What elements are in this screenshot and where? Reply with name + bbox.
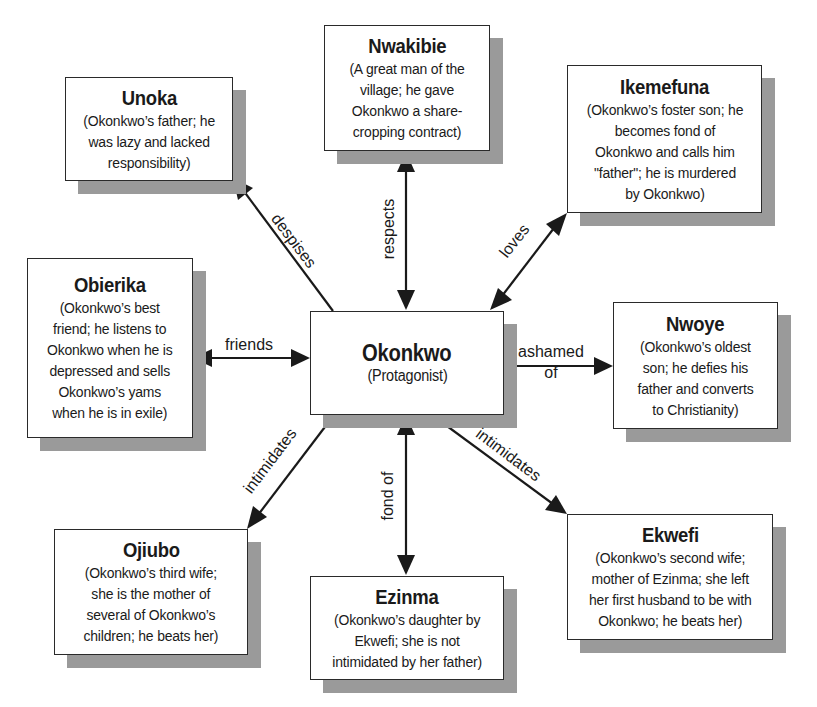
arrowhead-icon [594, 357, 613, 375]
relationship-diagram: Unoka (Okonkwo’s father; he was lazy and… [0, 0, 817, 707]
node-description: (Okonkwo’s oldest son; he defies his fat… [631, 336, 760, 420]
arrowhead-icon [397, 290, 415, 310]
node-description: (Protagonist) [363, 365, 452, 386]
node-description: (A great man of the village; he gave Oko… [343, 58, 471, 142]
edge-respects [397, 152, 415, 310]
node-description: (Okonkwo’s father; he was lazy and lacke… [76, 110, 222, 173]
edge-label-friends: friends [225, 336, 273, 354]
node-description: (Okonkwo’s second wife; mother of Ezinma… [580, 547, 761, 631]
edge-label-intimidates-ekwefi: intimidates [472, 425, 544, 485]
node-name: Nwoye [666, 312, 724, 336]
arrowhead-icon [397, 152, 415, 172]
arrowhead-icon [546, 213, 567, 236]
node-description: (Okonkwo’s best friend; he listens to Ok… [40, 297, 179, 423]
arrowhead-icon [397, 415, 415, 435]
arrowhead-icon [545, 495, 567, 514]
arrowhead-icon [291, 349, 310, 367]
node-description: (Okonkwo’s third wife; she is the mother… [76, 562, 226, 646]
node-ojiubo: Ojiubo (Okonkwo’s third wife; she is the… [54, 529, 248, 655]
edge-label-despises: despises [267, 210, 319, 271]
node-name: Ekwefi [642, 523, 699, 547]
node-okonkwo: Okonkwo (Protagonist) [310, 311, 504, 415]
arrowhead-icon [247, 506, 267, 529]
node-ekwefi: Ekwefi (Okonkwo’s second wife; mother of… [567, 514, 773, 640]
node-name: Okonkwo [362, 341, 451, 365]
edge-label-intimidates-ojiubo: intimidates [240, 425, 300, 497]
node-obierika: Obierika (Okonkwo’s best friend; he list… [27, 258, 193, 438]
node-name: Ikemefuna [620, 75, 709, 99]
node-description: (Okonkwo’s foster son; he becomes fond o… [578, 99, 752, 204]
edge-label-respects: respects [380, 199, 398, 259]
node-ikemefuna: Ikemefuna (Okonkwo’s foster son; he beco… [567, 65, 762, 213]
edge-intimidates-ekwefi [432, 415, 567, 514]
edge-label-ashamed-of: ashamed of [518, 341, 584, 383]
edge-label-fond-of: fond of [379, 472, 397, 521]
edge-despises [233, 178, 333, 311]
node-nwakibie: Nwakibie (A great man of the village; he… [324, 25, 490, 151]
arrowhead-icon [193, 349, 212, 367]
node-description: (Okonkwo’s daughter by Ekwefi; she is no… [324, 609, 490, 672]
node-name: Ojiubo [123, 538, 180, 562]
node-name: Unoka [121, 86, 176, 110]
arrowhead-icon [490, 288, 512, 310]
node-nwoye: Nwoye (Okonkwo’s oldest son; he defies h… [613, 302, 778, 429]
arrowhead-icon [233, 178, 253, 200]
node-name: Ezinma [375, 585, 438, 609]
node-name: Nwakibie [368, 34, 446, 58]
node-unoka: Unoka (Okonkwo’s father; he was lazy and… [65, 77, 233, 181]
node-name: Obierika [74, 273, 146, 297]
node-ezinma: Ezinma (Okonkwo’s daughter by Ekwefi; sh… [310, 576, 504, 680]
edge-fond-of [397, 415, 415, 575]
edge-label-loves: loves [496, 221, 533, 262]
arrowhead-icon [397, 555, 415, 575]
